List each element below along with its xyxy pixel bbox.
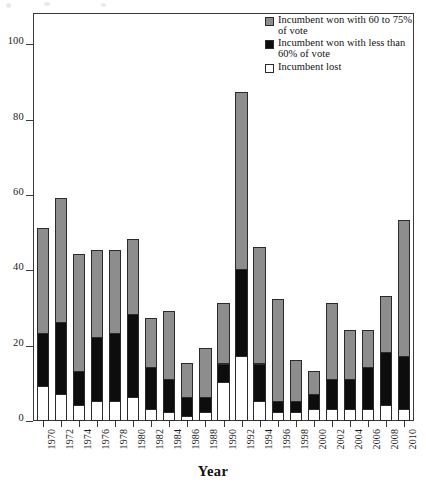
bar-segment-incumbent-lost — [55, 394, 67, 421]
x-axis-tick-label: 1974 — [83, 429, 93, 449]
x-axis-tick-mark — [350, 421, 351, 427]
x-axis-tick-label: 2008 — [390, 429, 400, 449]
x-axis-tick-mark — [205, 421, 206, 427]
bar[interactable] — [73, 255, 85, 421]
bar-segment-incumbent-lost — [308, 409, 320, 421]
bar[interactable] — [109, 251, 121, 421]
bar-segment-incumbent-lost — [163, 412, 175, 421]
bar-segment-won-under-60 — [127, 314, 139, 398]
bar-segment-won-60-to-75 — [362, 330, 374, 369]
bar-segment-won-60-to-75 — [145, 318, 157, 368]
bar[interactable] — [380, 297, 392, 421]
bar-segment-incumbent-lost — [217, 382, 229, 421]
bar-segment-incumbent-lost — [109, 401, 121, 421]
x-axis-tick-label: 2002 — [336, 429, 346, 449]
y-axis-tick-mark — [26, 421, 33, 422]
x-axis-tick-label: 1988 — [209, 429, 219, 449]
bar-segment-won-60-to-75 — [91, 250, 103, 338]
x-axis-tick-mark — [115, 421, 116, 427]
bar-segment-won-60-to-75 — [55, 198, 67, 323]
x-axis-tick-mark — [242, 421, 243, 427]
bar-segment-incumbent-lost — [199, 412, 211, 421]
x-axis-tick-mark — [151, 421, 152, 427]
bar-segment-won-60-to-75 — [253, 247, 265, 365]
bar[interactable] — [199, 349, 211, 421]
bar-segment-incumbent-lost — [362, 409, 374, 421]
bar-segment-won-60-to-75 — [380, 296, 392, 354]
legend-label: Incumbent won with 60 to 75% of vote — [278, 15, 415, 36]
x-axis-tick-mark — [97, 421, 98, 427]
x-axis-title: Year — [0, 463, 426, 480]
x-axis-tick-label: 2004 — [354, 429, 364, 449]
bar[interactable] — [181, 364, 193, 421]
legend-swatch-white-icon — [265, 64, 274, 73]
bar[interactable] — [55, 199, 67, 421]
bar[interactable] — [272, 300, 284, 421]
bar[interactable] — [398, 221, 410, 421]
bar-segment-incumbent-lost — [380, 405, 392, 421]
y-axis-tick-mark — [26, 270, 33, 271]
scan-artifact — [44, 2, 50, 6]
bar-segment-won-60-to-75 — [290, 360, 302, 402]
bar[interactable] — [362, 331, 374, 421]
x-axis-tick-mark — [404, 421, 405, 427]
x-axis-tick-label: 2000 — [318, 429, 328, 449]
y-axis-tick: 60 — [0, 195, 33, 196]
bar-segment-won-under-60 — [235, 269, 247, 357]
bar[interactable] — [253, 248, 265, 421]
x-axis-tick-mark — [133, 421, 134, 427]
x-axis-tick-mark — [386, 421, 387, 427]
y-axis-tick-label: 20 — [13, 338, 24, 349]
bar-segment-incumbent-lost — [73, 405, 85, 421]
bar[interactable] — [163, 312, 175, 421]
bar-segment-won-under-60 — [217, 364, 229, 384]
bar-segment-won-under-60 — [163, 379, 175, 414]
bar[interactable] — [308, 372, 320, 421]
legend-swatch-black-icon — [265, 40, 274, 49]
bar-segment-won-under-60 — [37, 333, 49, 387]
x-axis-tick-label: 1994 — [264, 429, 274, 449]
bar-segment-incumbent-lost — [290, 412, 302, 421]
y-axis-tick: 40 — [0, 270, 33, 271]
bar[interactable] — [127, 240, 139, 421]
x-axis-tick-label: 1984 — [173, 429, 183, 449]
x-axis-tick-label: 1996 — [282, 429, 292, 449]
y-axis-tick-label: 40 — [13, 262, 24, 273]
legend-swatch-grey-icon — [265, 17, 274, 26]
bar-segment-won-under-60 — [290, 401, 302, 413]
x-axis-tick-label: 1982 — [155, 429, 165, 449]
x-axis-tick-label: 1978 — [119, 429, 129, 449]
x-axis-tick-label: 1976 — [101, 429, 111, 449]
bar-segment-incumbent-lost — [344, 409, 356, 421]
bar-segment-incumbent-lost — [127, 397, 139, 421]
x-axis-tick-mark — [224, 421, 225, 427]
x-axis-tick-mark — [368, 421, 369, 427]
bar[interactable] — [344, 331, 356, 421]
x-axis-tick-label: 2006 — [372, 429, 382, 449]
bar[interactable] — [37, 229, 49, 421]
bar-segment-won-under-60 — [73, 371, 85, 406]
legend-item-grey: Incumbent won with 60 to 75% of vote — [265, 15, 415, 36]
bar-segment-won-under-60 — [398, 356, 410, 410]
scan-artifact — [101, 3, 106, 7]
x-axis-tick-label: 1998 — [300, 429, 310, 449]
y-axis-tick-mark — [26, 346, 33, 347]
bar[interactable] — [326, 304, 338, 421]
bar[interactable] — [217, 304, 229, 421]
bar-segment-won-under-60 — [380, 352, 392, 406]
bar-segment-won-under-60 — [55, 322, 67, 395]
bar[interactable] — [235, 93, 247, 421]
bar[interactable] — [290, 361, 302, 421]
bar-segment-incumbent-lost — [272, 412, 284, 421]
y-axis-tick-label: 80 — [13, 112, 24, 123]
legend-item-black: Incumbent won with less than 60% of vote — [265, 38, 415, 59]
bar[interactable] — [145, 319, 157, 421]
bar-segment-won-under-60 — [145, 367, 157, 409]
y-axis-tick-mark — [26, 44, 33, 45]
bar[interactable] — [91, 251, 103, 421]
y-axis-tick-label: 100 — [8, 36, 24, 47]
bar-segment-won-under-60 — [181, 397, 193, 417]
x-axis-tick-mark — [43, 421, 44, 427]
bar-segment-won-60-to-75 — [127, 239, 139, 315]
legend-item-white: Incumbent lost — [265, 62, 415, 73]
